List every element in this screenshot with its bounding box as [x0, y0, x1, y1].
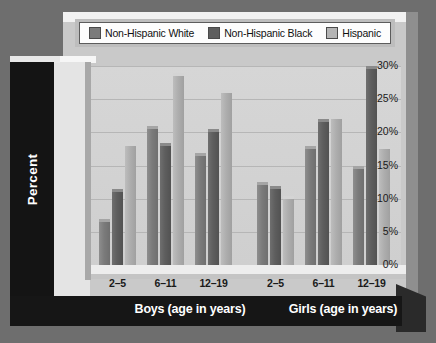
- bar: [160, 146, 171, 265]
- legend-item-non-hispanic-black: Non-Hispanic Black: [208, 27, 312, 39]
- bar: [331, 119, 342, 265]
- x-axis-tick-label: 12–19: [191, 277, 237, 289]
- bar-body: [195, 156, 206, 265]
- y-axis-tick-label: 25%: [364, 92, 398, 104]
- bar: [208, 132, 219, 265]
- legend-label: Non-Hispanic White: [105, 27, 194, 39]
- bar-body: [208, 132, 219, 265]
- y-axis-tick-label: 5%: [364, 225, 398, 237]
- y-axis-tick-label: 10%: [364, 192, 398, 204]
- legend-label: Hispanic: [342, 27, 381, 39]
- bar-body: [283, 199, 294, 265]
- x-axis-group-title-girls: Girls (age in years): [248, 302, 436, 316]
- bar-body: [270, 189, 281, 265]
- bar-body: [160, 146, 171, 265]
- bar: [125, 146, 136, 265]
- x-axis-tick-label: 12–19: [349, 277, 395, 289]
- bar: [305, 149, 316, 265]
- bar-body: [173, 76, 184, 265]
- bar-body: [331, 119, 342, 265]
- bar-body: [318, 122, 329, 265]
- x-axis-tick-label: 2–5: [95, 277, 141, 289]
- chart-backdrop-right-bevel: [406, 12, 418, 322]
- bar-body: [147, 129, 158, 265]
- x-axis-tick-label: 6–11: [301, 277, 347, 289]
- bar: [112, 192, 123, 265]
- x-axis-tick-label: 6–11: [143, 277, 189, 289]
- bar-body: [112, 192, 123, 265]
- y-axis-strip-edge: [85, 62, 91, 280]
- bar: [195, 156, 206, 265]
- bar: [283, 199, 294, 265]
- bar: [257, 185, 268, 265]
- x-axis-tick-label: 2–5: [253, 277, 299, 289]
- bar-group: [91, 66, 401, 265]
- bar: [270, 189, 281, 265]
- bar-body: [257, 185, 268, 265]
- bar: [173, 76, 184, 265]
- legend-item-hispanic: Hispanic: [326, 27, 381, 39]
- bar: [147, 129, 158, 265]
- bar-body: [221, 93, 232, 265]
- bar-body: [99, 222, 110, 265]
- x-axis-tick-labels: 2–56–1112–192–56–1112–19: [91, 277, 401, 293]
- bar: [318, 122, 329, 265]
- legend-swatch-icon: [89, 27, 101, 39]
- y-axis-tick-label: 20%: [364, 125, 398, 137]
- bar: [353, 169, 364, 265]
- bar-body: [125, 146, 136, 265]
- legend-label: Non-Hispanic Black: [224, 27, 312, 39]
- y-axis-title: Percent: [25, 110, 40, 250]
- legend-swatch-icon: [208, 27, 220, 39]
- legend-item-non-hispanic-white: Non-Hispanic White: [89, 27, 194, 39]
- y-axis-title-block: Percent: [10, 62, 54, 307]
- y-axis-tick-label: 30%: [364, 59, 398, 71]
- bar: [221, 93, 232, 265]
- bar: [99, 222, 110, 265]
- bar-body: [305, 149, 316, 265]
- chart-legend: Non-Hispanic White Non-Hispanic Black Hi…: [79, 22, 391, 44]
- bar-body: [353, 169, 364, 265]
- y-axis-tick-label: 0%: [364, 258, 398, 270]
- y-axis-tick-label: 15%: [364, 159, 398, 171]
- legend-swatch-icon: [326, 27, 338, 39]
